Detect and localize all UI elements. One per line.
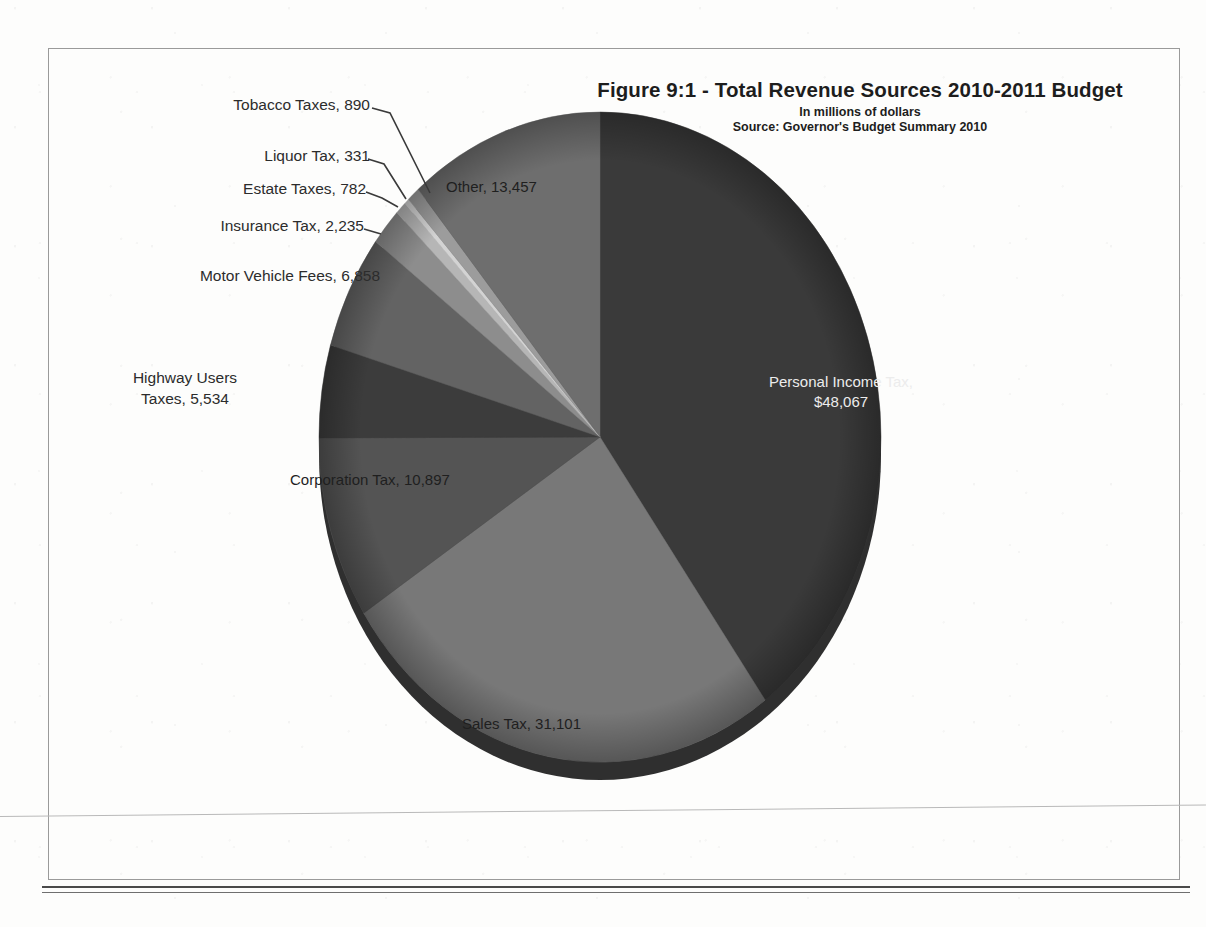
leader-line-tobacco <box>372 108 430 193</box>
slice-label-corporation-tax: Corporation Tax, 10,897 <box>290 470 450 490</box>
callout-liquor-tax: Liquor Tax, 331 <box>60 147 370 165</box>
callout-tobacco-taxes: Tobacco Taxes, 890 <box>60 96 370 114</box>
slice-label-personal-income-tax: Personal Income Tax, $48,067 <box>741 372 941 413</box>
leader-line-insurance <box>364 229 381 234</box>
callout-insurance-tax: Insurance Tax, 2,235 <box>50 217 364 235</box>
leader-line-liquor <box>368 159 406 199</box>
callout-highway-users-line2: Taxes, 5,534 <box>60 389 310 410</box>
callout-highway-users-line1: Highway Users <box>60 368 310 389</box>
slice-label-personal-income-tax-line2: $48,067 <box>741 392 941 412</box>
slice-label-sales-tax: Sales Tax, 31,101 <box>462 714 581 734</box>
pie-chart <box>0 0 1206 927</box>
leader-line-estate <box>366 192 398 207</box>
callout-motor-vehicle-fees: Motor Vehicle Fees, 6,858 <box>40 267 380 285</box>
callout-highway-users-taxes: Highway Users Taxes, 5,534 <box>60 368 310 410</box>
callout-estate-taxes: Estate Taxes, 782 <box>60 180 366 198</box>
pie-edge-shading <box>319 112 881 762</box>
slice-label-personal-income-tax-line1: Personal Income Tax, <box>741 372 941 392</box>
slice-label-other: Other, 13,457 <box>446 177 537 197</box>
pie-chart-svg <box>0 0 1206 927</box>
